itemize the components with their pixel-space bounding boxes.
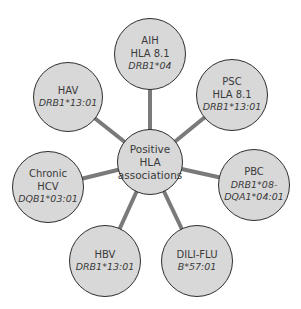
- center-label-line: HLA: [139, 156, 160, 169]
- node-pbc: PBCDRB1*08-DQA1*04:01: [218, 149, 290, 221]
- node-line: HCV: [37, 181, 58, 194]
- hla-allele: DRB1*13:01: [39, 97, 98, 110]
- center-label-line: Positive: [130, 143, 170, 156]
- node-hbv: HBVDRB1*13:01: [69, 225, 141, 297]
- node-line: HLA 8.1: [212, 89, 251, 102]
- disease-label: PBC: [244, 166, 264, 179]
- hla-allele: DRB1*08-: [231, 179, 278, 192]
- hla-allele: DQB1*03:01: [18, 193, 77, 206]
- node-aih: AIHHLA 8.1DRB1*04: [114, 18, 186, 90]
- center-label-line: associations: [118, 169, 183, 182]
- hla-allele: DRB1*04: [128, 60, 171, 73]
- node-psc: PSCHLA 8.1DRB1*13:01: [196, 59, 268, 131]
- hla-allele: B*57:01: [178, 261, 217, 274]
- disease-label: HBV: [95, 249, 116, 262]
- center-node: PositiveHLAassociations: [117, 129, 183, 195]
- disease-label: DILI-FLU: [177, 249, 218, 262]
- disease-label: PSC: [222, 76, 241, 89]
- node-dili-flu: DILI-FLUB*57:01: [161, 225, 233, 297]
- node-line: HLA 8.1: [130, 48, 169, 61]
- disease-label: Chronic: [29, 168, 67, 181]
- hla-allele: DQA1*04:01: [224, 191, 283, 204]
- hla-allele: DRB1*13:01: [76, 261, 135, 274]
- disease-label: HAV: [58, 85, 79, 98]
- node-hav: HAVDRB1*13:01: [33, 62, 103, 132]
- hla-allele: DRB1*13:01: [203, 101, 262, 114]
- node-chronic-hcv: ChronicHCVDQB1*03:01: [12, 151, 84, 223]
- disease-label: AIH: [141, 35, 158, 48]
